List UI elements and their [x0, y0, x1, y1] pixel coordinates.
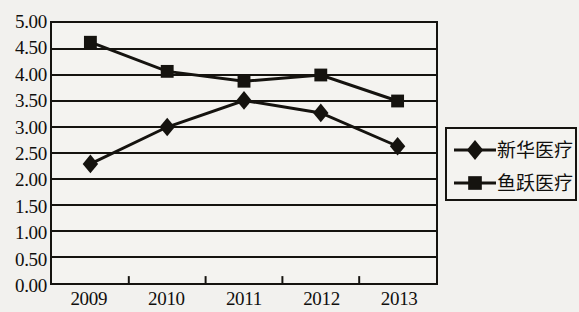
y-axis-tick-label: 4.50 [1, 38, 47, 57]
y-axis-tick-label: 4.00 [1, 65, 47, 84]
legend-diamond-icon [453, 138, 497, 162]
chart-legend: 新华医疗鱼跃医疗 [445, 127, 577, 201]
data-point-marker-square [314, 69, 327, 82]
x-axis-tick-label: 2013 [360, 287, 438, 312]
series-1 [83, 91, 406, 173]
y-axis-tick-label: 0.50 [1, 250, 47, 269]
y-axis-tick-label: 1.50 [1, 197, 47, 216]
line-chart: 5.004.504.003.503.002.502.001.501.000.50… [0, 0, 579, 312]
series-line [90, 100, 397, 163]
x-axis-tick-label: 2009 [50, 287, 128, 312]
legend-marker-svg [453, 171, 497, 195]
data-point-marker-square [391, 95, 404, 108]
y-axis-tick-label: 3.50 [1, 91, 47, 110]
y-axis-tick-label: 2.00 [1, 170, 47, 189]
legend-item-1[interactable]: 新华医疗 [453, 133, 575, 166]
y-axis-tick-label: 5.00 [1, 12, 47, 31]
data-point-marker-square [161, 65, 174, 78]
legend-item-label: 鱼跃医疗 [497, 172, 573, 194]
data-point-marker-square [238, 75, 251, 88]
data-point-marker-square [84, 36, 97, 49]
legend-square-icon [453, 171, 497, 195]
data-point-marker-diamond [83, 155, 98, 174]
legend-item-label: 新华医疗 [497, 139, 573, 161]
y-axis: 5.004.504.003.503.002.502.001.501.000.50… [0, 0, 47, 312]
y-axis-tick-label: 1.00 [1, 223, 47, 242]
x-axis-tick-label: 2012 [283, 287, 361, 312]
plot-svg [52, 23, 436, 283]
legend-marker-svg [453, 138, 497, 162]
y-axis-tick-label: 0.00 [1, 276, 47, 295]
data-point-marker-diamond [159, 118, 174, 137]
x-axis-tick-label: 2011 [205, 287, 283, 312]
x-axis-tick-label: 2010 [128, 287, 206, 312]
y-axis-tick-label: 2.50 [1, 144, 47, 163]
data-point-marker-diamond [236, 91, 251, 110]
y-axis-tick-label: 3.00 [1, 118, 47, 137]
x-axis: 20092010201120122013 [50, 287, 438, 312]
legend-item-2[interactable]: 鱼跃医疗 [453, 166, 575, 199]
data-point-marker-diamond [313, 104, 328, 123]
plot-area [50, 21, 438, 285]
data-point-marker-square [468, 176, 482, 190]
data-point-marker-diamond [467, 140, 483, 160]
